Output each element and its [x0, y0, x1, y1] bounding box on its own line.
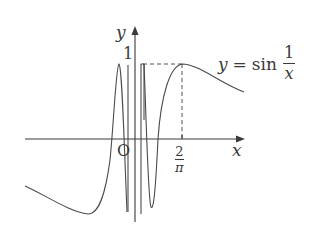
x-axis-label: x: [232, 142, 242, 159]
function-name: sin: [252, 54, 277, 74]
y-axis-arrow-icon: [132, 26, 139, 35]
function-fraction: 1 x: [283, 45, 295, 82]
x-tick-fraction: 2 π: [175, 145, 184, 174]
origin-label: O: [117, 143, 130, 159]
function-numerator: 1: [284, 45, 294, 61]
function-denominator: x: [284, 66, 293, 82]
equals-sign: =: [233, 54, 247, 74]
y-axis-label: y: [116, 24, 126, 41]
sin-one-over-x-graph: y 1 O x 2 π y = sin 1 x: [0, 0, 318, 240]
curve-right: [144, 64, 244, 208]
x-tick-numerator: 2: [175, 145, 183, 158]
graph-canvas: [0, 0, 318, 240]
function-label: y = sin 1 x: [218, 45, 295, 82]
y-tick-one-label: 1: [123, 46, 133, 62]
x-tick-denominator: π: [175, 161, 184, 174]
function-lhs: y: [218, 54, 228, 74]
